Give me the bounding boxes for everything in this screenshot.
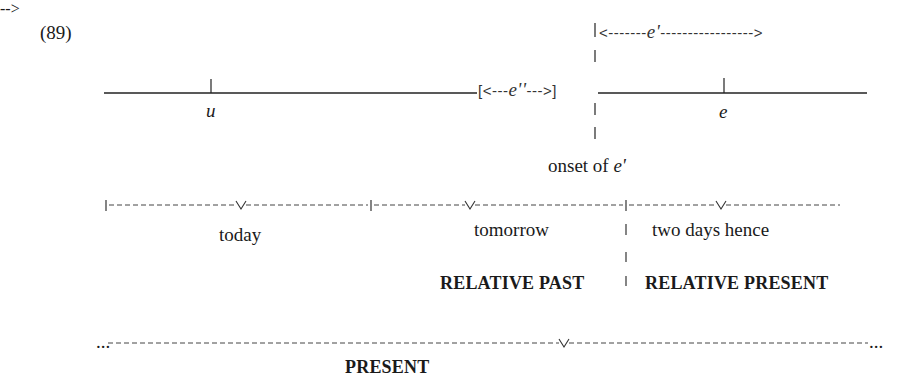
day-label-today: today [219,224,261,246]
e-double-prime-label: e'' [508,79,526,100]
diagram-lines [0,0,916,386]
onset-label-text: onset of [548,155,613,176]
day-midpoint-marks [236,201,726,209]
e-prime-arrow: <-------e'-----------------> [599,21,763,43]
day-label-tomorrow: tomorrow [474,219,549,241]
present-label: PRESENT [345,357,429,378]
onset-label: onset of e' [548,155,626,177]
relative-past-label: RELATIVE PAST [440,273,584,294]
relative-present-label: RELATIVE PRESENT [645,273,828,294]
present-right-ellipsis: ... [869,331,883,353]
day-label-two-days-hence: two days hence [652,219,769,241]
onset-label-var: e' [613,155,626,176]
e-double-prime-bracket: [<---e''--->] [478,79,557,101]
e-prime-label: e' [647,21,661,42]
u-label: u [206,100,216,122]
present-midpoint-mark [559,339,569,347]
e-label: e [719,101,727,123]
present-left-ellipsis: ... [96,331,110,353]
